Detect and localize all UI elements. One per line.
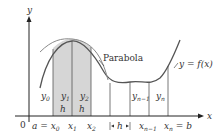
x1-label: x1: [68, 121, 77, 132]
yn1-label: yn−1: [131, 91, 150, 102]
xn1-label: xn−1: [139, 121, 157, 132]
h-arrow-left-icon: [111, 125, 114, 128]
xn-eq-b-label: xn = b: [164, 121, 192, 132]
h-arrow-right-icon: [126, 125, 129, 128]
origin-label: 0: [20, 120, 26, 130]
function-pointer: [174, 63, 178, 68]
x-axis-arrow-icon: [198, 114, 204, 119]
h1-label: h: [60, 104, 66, 114]
simpsons-rule-diagram: y x 0 Parabola y = f(x) y0 y1 y2 yn−1 yn…: [0, 0, 223, 139]
h-interval-label: h: [117, 121, 123, 131]
yn-label: yn: [155, 91, 165, 102]
parabola-label: Parabola: [103, 53, 144, 63]
y0-label: y0: [40, 91, 50, 102]
x-axis-label: x: [207, 111, 212, 121]
a-eq-x0-label: a = x0: [32, 121, 60, 132]
x2-label: x2: [87, 121, 96, 132]
y-axis-arrow-icon: [27, 16, 32, 22]
function-label: y = f(x): [178, 59, 213, 69]
y-axis-label: y: [26, 5, 33, 15]
h2-label: h: [79, 104, 85, 114]
